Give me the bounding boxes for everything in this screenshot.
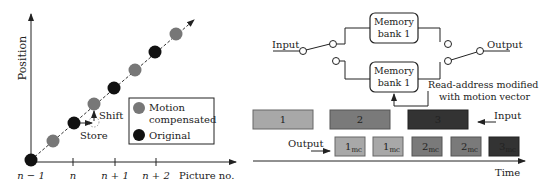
legend-original: Original — [149, 130, 190, 141]
svg-text:3: 3 — [435, 114, 441, 125]
timeline-input-label: Input — [494, 110, 521, 121]
input-block-3: 3 — [408, 110, 468, 129]
input-switch-arm — [306, 44, 330, 50]
svg-text:Memory: Memory — [374, 65, 415, 76]
memory-bank-top: Memory bank 1 — [370, 13, 418, 43]
tick-n-minus-1: n − 1 — [17, 170, 45, 181]
timeline: 1 2 3 Input Output 1mc 1mc 2mc 2mc — [253, 110, 525, 178]
output-block-3: 2mc — [412, 137, 442, 156]
circuit-input-label: Input — [272, 39, 299, 50]
legend-original-swatch — [133, 129, 145, 141]
shift-label: Shift — [99, 110, 123, 121]
tick-n-plus-1: n + 1 — [101, 170, 129, 181]
output-switch-pivot — [477, 48, 484, 55]
circuit-output-label: Output — [487, 39, 523, 50]
memory-bank-circuit: Input Memory bank 1 Memory bank 1 Output… — [272, 13, 538, 106]
read-address-arrow — [394, 91, 428, 106]
svg-text:Memory: Memory — [374, 16, 415, 27]
svg-text:2: 2 — [357, 114, 363, 125]
position-chart: Position n − 1 n n + 1 n + 2 Picture no.… — [16, 14, 236, 181]
output-switch-arm — [451, 52, 477, 60]
output-block-2: 1mc — [373, 137, 403, 156]
read-address-line2: with motion vector — [439, 91, 530, 102]
svg-text:bank 1: bank 1 — [378, 28, 411, 39]
legend: Motion compensated Original — [129, 98, 217, 144]
legend-motion-compensated-swatch — [133, 102, 145, 114]
memory-bank-bottom: Memory bank 1 — [370, 62, 418, 92]
svg-text:1: 1 — [280, 114, 286, 125]
output-block-5: 3mc — [489, 137, 519, 156]
input-block-1: 1 — [253, 110, 313, 129]
input-switch-pivot — [300, 48, 307, 55]
legend-motion-line2: compensated — [149, 114, 217, 125]
tick-n: n — [70, 170, 76, 181]
legend-motion-line1: Motion — [149, 102, 185, 113]
svg-text:bank 1: bank 1 — [378, 77, 411, 88]
read-address-line1: Read-address modified — [428, 79, 538, 90]
output-block-4: 2mc — [451, 137, 481, 156]
output-block-1: 1mc — [335, 137, 365, 156]
y-axis-label: Position — [16, 36, 29, 80]
x-axis-label: Picture no. — [179, 170, 234, 181]
diagram-canvas: Position n − 1 n n + 1 n + 2 Picture no.… — [0, 0, 551, 185]
store-label: Store — [80, 130, 108, 141]
timeline-output-label: Output — [288, 138, 324, 149]
input-block-2: 2 — [330, 110, 390, 129]
tick-n-plus-2: n + 2 — [142, 170, 170, 181]
time-label: Time — [495, 167, 520, 178]
